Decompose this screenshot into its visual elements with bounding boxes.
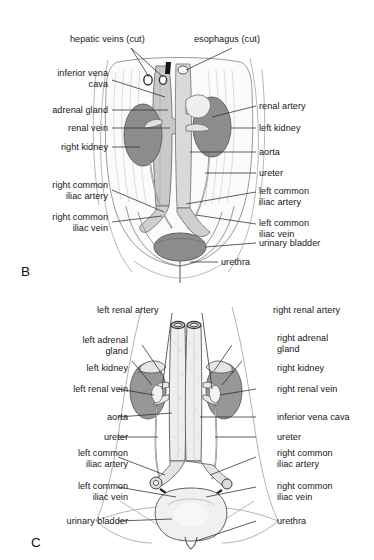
panel-letter-c: C	[31, 535, 41, 550]
label-left-common-iliac-artery: left common iliac artery	[259, 186, 371, 207]
label-left-common-iliac-vein-c: left common iliac vein	[22, 481, 128, 502]
label-right-common-iliac-artery-c: right common iliac artery	[277, 448, 373, 469]
label-right-adrenal-gland: right adrenal gland	[277, 333, 373, 354]
label-left-kidney-c: left kidney	[28, 363, 128, 374]
panel-letter-b: B	[21, 264, 30, 279]
anatomy-figure: hepatic veins (cut) inferior vena cava a…	[0, 0, 374, 560]
label-right-kidney: right kidney	[8, 142, 108, 153]
label-ureter: ureter	[259, 168, 369, 179]
right-kidney-b	[124, 104, 162, 166]
aorta-b	[175, 64, 191, 208]
label-left-renal-vein: left renal vein	[20, 384, 128, 395]
label-ureter-left-c: ureter	[28, 432, 128, 443]
label-esophagus-cut: esophagus (cut)	[194, 34, 304, 45]
label-right-renal-artery: right renal artery	[273, 305, 373, 316]
urinary-bladder-b	[154, 233, 206, 261]
aorta-c	[169, 321, 185, 461]
label-ureter-right-c: ureter	[277, 432, 373, 443]
label-renal-vein: renal vein	[8, 123, 108, 134]
label-aorta: aorta	[259, 147, 369, 158]
label-urethra-c: urethra	[277, 516, 373, 527]
label-left-common-iliac-artery-c: left common iliac artery	[22, 448, 128, 469]
label-left-kidney: left kidney	[259, 123, 369, 134]
urinary-bladder-c	[155, 488, 227, 541]
label-inferior-vena-cava: inferior vena cava	[8, 68, 108, 89]
label-renal-artery: renal artery	[259, 101, 369, 112]
label-urinary-bladder-c: urinary bladder	[18, 516, 128, 527]
label-urethra: urethra	[221, 257, 301, 268]
panel-b-anterior-view: hepatic veins (cut) inferior vena cava a…	[0, 0, 374, 285]
label-right-kidney-c: right kidney	[277, 363, 373, 374]
label-right-common-iliac-artery: right common iliac artery	[8, 180, 108, 201]
left-adrenal-gland-c	[140, 361, 166, 373]
label-left-common-iliac-vein: left common iliac vein	[259, 218, 371, 239]
iliac-vessels-c	[155, 461, 228, 486]
panel-c-posterior-view: left renal artery left adrenal gland lef…	[0, 285, 374, 560]
label-aorta-c: aorta	[28, 412, 128, 423]
label-hepatic-veins-cut: hepatic veins (cut)	[70, 34, 180, 45]
label-right-renal-vein: right renal vein	[277, 384, 373, 395]
label-left-adrenal-gland: left adrenal gland	[28, 335, 128, 356]
label-inferior-vena-cava-c: inferior vena cava	[277, 412, 374, 423]
inferior-vena-cava-c	[185, 321, 201, 461]
label-adrenal-gland: adrenal gland	[8, 105, 108, 116]
label-left-renal-artery: left renal artery	[97, 305, 207, 316]
label-urinary-bladder: urinary bladder	[259, 238, 371, 249]
renal-hilum-detail-b	[186, 95, 211, 118]
label-right-common-iliac-vein: right common iliac vein	[8, 212, 108, 233]
label-right-common-iliac-vein-c: right common iliac vein	[277, 481, 373, 502]
